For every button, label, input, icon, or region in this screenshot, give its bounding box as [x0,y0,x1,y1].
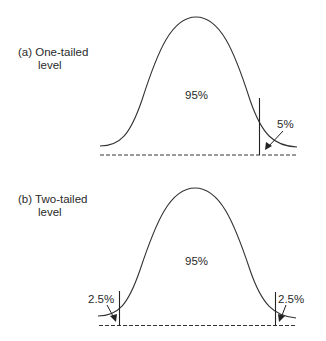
panel-a-label-line2: level [38,59,62,71]
tail-label-a-right: 5% [277,118,294,130]
significance-levels-diagram: (a) One-tailed level 95% 5% (b) Two-tail… [0,0,326,341]
panel-b-label-line2: level [38,206,62,218]
panel-two-tailed: (b) Two-tailed level 95% 2.5% 2.5% [18,188,304,326]
tail-label-b-left: 2.5% [88,293,114,305]
panel-b-label-line1: (b) Two-tailed [18,193,87,205]
panel-a-label-line1: (a) One-tailed [18,46,88,58]
tail-label-b-right: 2.5% [278,293,304,305]
center-label-b: 95% [185,255,208,267]
center-label-a: 95% [185,89,208,101]
normal-curve-b [98,188,296,318]
panel-one-tailed: (a) One-tailed level 95% 5% [18,17,297,155]
arrow-icon-b-left [107,305,117,322]
normal-curve-a [100,17,297,147]
